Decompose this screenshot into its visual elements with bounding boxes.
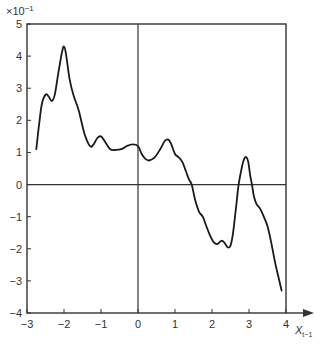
x-tick-label: 0 <box>135 318 141 330</box>
data-curve <box>36 46 281 290</box>
y-tick-label: 0 <box>16 179 22 191</box>
y-tick-label: 1 <box>16 146 22 158</box>
x-axis-ticks: −3−2−101234 <box>21 309 289 330</box>
y-tick-label: 4 <box>16 50 22 62</box>
y-tick-label: 5 <box>16 18 22 30</box>
plot-frame <box>27 24 286 313</box>
chart-container: −4−3−2−1012345 −3−2−101234 ×10−1 Xt−1 <box>0 0 324 348</box>
line-chart: −4−3−2−1012345 −3−2−101234 ×10−1 Xt−1 <box>0 0 324 348</box>
x-tick-label: 2 <box>209 318 215 330</box>
y-scale-label: ×10−1 <box>6 4 34 17</box>
x-tick-label: 4 <box>283 318 289 330</box>
x-tick-label: 1 <box>172 318 178 330</box>
x-tick-label: −3 <box>21 318 34 330</box>
y-tick-label: −1 <box>9 211 22 223</box>
x-tick-label: −2 <box>58 318 71 330</box>
reference-lines <box>27 24 286 313</box>
x-tick-label: −1 <box>95 318 108 330</box>
y-tick-label: 3 <box>16 82 22 94</box>
x-axis-arrow-icon <box>286 309 314 317</box>
y-tick-label: 2 <box>16 114 22 126</box>
y-axis-ticks: −4−3−2−1012345 <box>9 18 31 319</box>
plot-border <box>27 24 286 313</box>
y-tick-label: −2 <box>9 243 22 255</box>
x-tick-label: 3 <box>246 318 252 330</box>
x-axis-label: Xt−1 <box>294 324 312 338</box>
y-tick-label: −3 <box>9 275 22 287</box>
